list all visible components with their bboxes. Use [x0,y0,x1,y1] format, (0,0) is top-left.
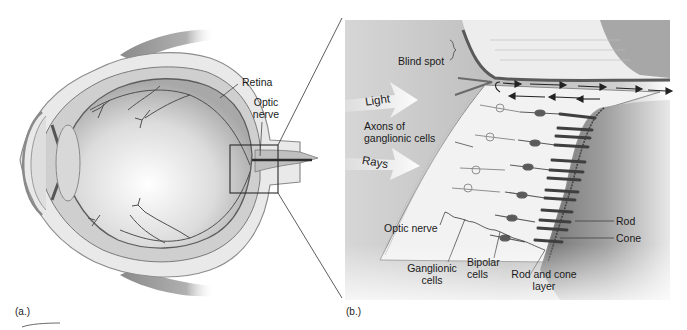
label-rod: Rod [616,215,635,227]
label-optic-nerve-b: Optic nerve [384,222,438,234]
label-cone: Cone [616,232,641,244]
label-optic-nerve-a-line1: Optic [248,96,284,108]
label-rod-cone-line2: layer [505,280,583,292]
label-axons-line2: ganglionic cells [364,132,435,144]
eye-retina-diagram: Retina Optic nerve (a.) Blind spot Light… [0,0,687,330]
eyeball-illustration [20,18,342,327]
label-rod-cone-line1: Rod and cone [505,268,583,280]
label-bipolar-line1: Bipolar [467,256,500,268]
label-ganglionic-line2: cells [402,274,462,286]
panel-a-tag: (a.) [15,306,30,317]
panel-b-tag: (b.) [346,306,361,317]
retina-detail-illustration [345,20,672,300]
label-bipolar-line2: cells [467,268,488,280]
label-retina: Retina [242,76,272,88]
label-optic-nerve-a-line2: nerve [248,108,284,120]
label-axons-line1: Axons of [364,120,405,132]
label-ganglionic-line1: Ganglionic [402,262,462,274]
label-blind-spot: Blind spot [398,55,444,67]
diagram-artwork [0,0,687,330]
